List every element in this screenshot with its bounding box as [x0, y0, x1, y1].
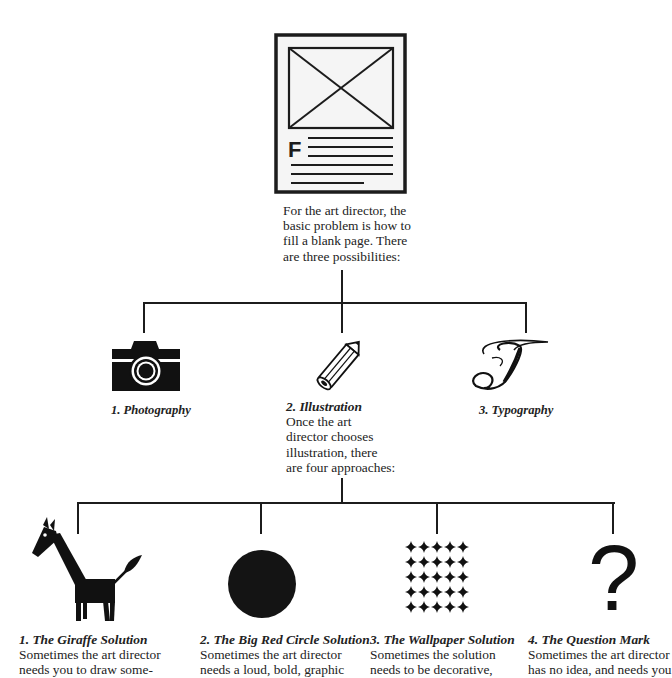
approach-body-line: Sometimes the art director — [19, 647, 161, 662]
intro-caption-line: For the art director, the — [283, 203, 411, 218]
approach-body-line: Sometimes the art director — [200, 647, 370, 662]
approach-title-giraffe: 1. The Giraffe Solution — [19, 632, 161, 647]
connector-drop-circle — [260, 502, 262, 534]
intro-caption-line: are three possibilities: — [283, 249, 411, 264]
possibility-label-photography: 1. Photography — [111, 403, 191, 418]
approach-body-line: Sometimes the solution — [370, 647, 515, 662]
approach-title-circle: 2. The Big Red Circle Solution — [200, 632, 370, 647]
approach-caption-giraffe: 1. The Giraffe Solution Sometimes the ar… — [19, 632, 161, 678]
illustration-body-line: Once the art — [286, 414, 395, 429]
approach-caption-question: 4. The Question Mark Sometimes the art d… — [528, 632, 672, 678]
approach-title-wallpaper: 3. The Wallpaper Solution — [370, 632, 515, 647]
illustration-body-line: illustration, there — [286, 445, 395, 460]
wallpaper-pattern-icon — [405, 541, 469, 613]
intro-caption-line: basic problem is how to — [283, 218, 411, 233]
approach-body-line: needs you to draw some- — [19, 662, 161, 677]
possibility-label-typography: 3. Typography — [479, 403, 553, 418]
connector-drop-wallpaper — [436, 502, 438, 534]
connector-drop-photography — [143, 302, 145, 333]
possibility-caption-illustration: 2. Illustration Once the art director ch… — [286, 399, 395, 475]
connector-drop-typography — [525, 302, 527, 333]
camera-icon — [110, 339, 182, 393]
approach-caption-circle: 2. The Big Red Circle Solution Sometimes… — [200, 632, 370, 678]
approach-title-question: 4. The Question Mark — [528, 632, 672, 647]
possibility-label-illustration: 2. Illustration — [286, 399, 395, 414]
giraffe-icon — [30, 517, 146, 621]
intro-caption-line: fill a blank page. There — [283, 233, 411, 248]
approach-body-line: Sometimes the art director — [528, 647, 672, 662]
connector-trunk-top — [341, 270, 343, 304]
script-t-icon — [470, 338, 550, 394]
intro-caption: For the art director, the basic problem … — [283, 203, 411, 264]
approach-caption-wallpaper: 3. The Wallpaper Solution Sometimes the … — [370, 632, 515, 678]
question-mark-icon: ? — [588, 536, 638, 616]
connector-drop-illustration — [341, 302, 343, 333]
approach-body-line: needs a loud, bold, graphic — [200, 662, 370, 677]
approach-body-line: has no idea, and needs you — [528, 662, 672, 677]
connector-trunk-bottom — [341, 478, 343, 504]
connector-bar-top — [143, 302, 527, 304]
approach-body-line: needs to be decorative, — [370, 662, 515, 677]
connector-bar-bottom — [77, 502, 615, 504]
illustration-body-line: director chooses — [286, 429, 395, 444]
pencil-icon — [312, 338, 362, 398]
big-circle-icon — [226, 548, 298, 620]
page-letter: F — [288, 137, 301, 162]
illustration-body-line: are four approaches: — [286, 460, 395, 475]
blank-page-layout-icon: F — [274, 33, 408, 195]
